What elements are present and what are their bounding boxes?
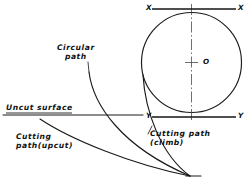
label-circular-path: Circular path	[57, 44, 95, 62]
label-cutting-path-climb-line2: (climb)	[150, 139, 211, 148]
label-uncut-surface: Uncut surface	[6, 104, 73, 113]
milling-path-diagram: Circular path Uncut surface Cutting path…	[0, 0, 249, 185]
label-cutting-path-upcut-line2: path(upcut)	[16, 142, 73, 151]
label-cutting-path-climb: Cutting path (climb)	[150, 130, 211, 148]
diagram-canvas	[0, 0, 249, 185]
axis-label-y-left: Y	[146, 112, 151, 120]
axis-label-x-left: X	[146, 4, 152, 12]
axis-label-x-right: X	[238, 4, 244, 12]
curve-circular-path	[89, 72, 190, 176]
leader-circular-path	[88, 62, 89, 72]
axis-label-y-right: Y	[238, 112, 243, 120]
label-center-point-o: O	[203, 58, 209, 66]
label-circular-path-line2: path	[57, 53, 95, 62]
label-cutting-path-upcut: Cutting path(upcut)	[16, 133, 73, 151]
